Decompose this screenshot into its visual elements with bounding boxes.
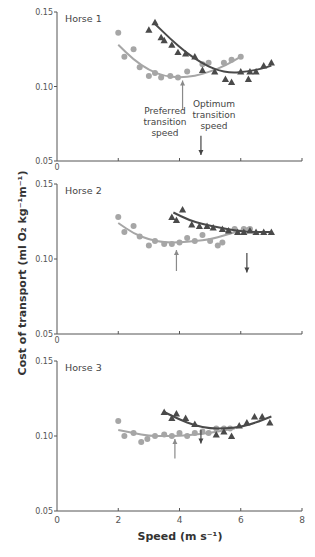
x-tick-label: 0 xyxy=(54,515,60,525)
trot-data-point xyxy=(177,240,183,246)
trot-data-point xyxy=(146,243,152,249)
trot-data-point xyxy=(206,430,212,436)
panel-horse-1: 0.050.100.150Horse 1 xyxy=(35,8,302,172)
panel-horse-2: 0.050.100.150Horse 2 xyxy=(35,180,302,345)
gallop-data-point xyxy=(173,410,180,416)
trot-data-point xyxy=(192,430,198,436)
trot-data-point xyxy=(121,433,127,439)
figure: 0.050.100.150Horse 10.050.100.150Horse 2… xyxy=(0,0,315,557)
y-tick-label: 0.15 xyxy=(35,8,53,17)
y-tick-label: 0.05 xyxy=(35,507,53,516)
trot-data-point xyxy=(121,54,127,60)
arrowhead-icon xyxy=(180,81,185,86)
y-tick-label: 0.05 xyxy=(35,157,53,166)
trot-data-point xyxy=(121,229,127,235)
annotation-preferred-line-3: speed xyxy=(151,128,178,138)
gallop-data-point xyxy=(228,432,235,438)
gallop-data-point xyxy=(174,49,181,55)
trot-data-point xyxy=(184,433,190,439)
trot-data-point xyxy=(219,240,225,246)
arrowhead-icon xyxy=(174,250,179,255)
trot-data-point xyxy=(131,430,137,436)
y-tick-label: 0.15 xyxy=(35,180,53,189)
chart-canvas: 0.050.100.150Horse 10.050.100.150Horse 2… xyxy=(0,0,315,557)
arrowhead-icon xyxy=(198,150,203,155)
arrowhead-icon xyxy=(244,268,249,273)
x-tick-label: 0 xyxy=(54,336,59,345)
x-tick-label: 6 xyxy=(238,515,244,525)
x-axis-label: Speed (m s⁻¹) xyxy=(138,530,223,543)
annotation-optimum-line-2: transition xyxy=(193,110,236,120)
trot-data-point xyxy=(115,30,121,36)
x-tick-label: 8 xyxy=(299,515,305,525)
panel-horse-3: 0.050.100.1502468Horse 3 xyxy=(35,357,305,525)
arrowhead-icon xyxy=(198,439,203,444)
annotation-preferred-line-2: transition xyxy=(144,117,187,127)
trot-data-point xyxy=(137,234,143,240)
y-tick-label: 0.10 xyxy=(35,432,53,441)
trot-data-point xyxy=(152,70,158,76)
y-axis-label: Cost of transport (ml O₂ kg⁻¹m⁻¹) xyxy=(16,171,29,376)
gallop-data-point xyxy=(222,75,229,81)
trot-data-point xyxy=(207,238,213,244)
gallop-data-point xyxy=(251,413,258,419)
trot-data-point xyxy=(158,75,164,81)
trot-data-point xyxy=(144,436,150,442)
panel-title: Horse 3 xyxy=(65,362,102,373)
trot-data-point xyxy=(137,64,143,70)
annotation-optimum: Optimum transition speed xyxy=(193,99,236,131)
trot-data-point xyxy=(115,214,121,220)
trot-data-point xyxy=(199,232,205,238)
annotation-optimum-line-1: Optimum xyxy=(193,99,235,109)
trot-data-point xyxy=(229,57,235,63)
trot-data-point xyxy=(161,241,167,247)
gallop-data-point xyxy=(179,206,186,212)
x-tick-label: 0 xyxy=(54,163,59,172)
x-tick-label: 4 xyxy=(177,515,183,525)
gallop-data-point xyxy=(182,414,189,420)
gallop-data-point xyxy=(151,19,158,25)
gallop-data-point xyxy=(245,75,252,81)
trot-data-point xyxy=(169,433,175,439)
trot-data-point xyxy=(167,73,173,79)
gallop-data-point xyxy=(243,419,250,425)
trot-data-point xyxy=(221,60,227,66)
trot-data-point xyxy=(184,235,190,241)
trot-data-point xyxy=(161,432,167,438)
gallop-data-point xyxy=(236,422,243,428)
gallop-data-point xyxy=(268,59,275,65)
gallop-data-point xyxy=(168,213,175,219)
gallop-fit-curve xyxy=(155,24,271,73)
gallop-data-point xyxy=(161,408,168,414)
gallop-data-point xyxy=(199,67,206,73)
panel-title: Horse 2 xyxy=(65,185,102,196)
y-tick-label: 0.10 xyxy=(35,255,53,264)
trot-data-point xyxy=(177,430,183,436)
trot-data-point xyxy=(192,238,198,244)
annotation-preferred-line-1: Preferred xyxy=(144,106,185,116)
y-tick-label: 0.10 xyxy=(35,83,53,92)
y-tick-label: 0.05 xyxy=(35,330,53,339)
trot-data-point xyxy=(131,46,137,52)
gallop-data-point xyxy=(266,419,273,425)
gallop-data-point xyxy=(228,78,235,84)
y-tick-label: 0.15 xyxy=(35,357,53,366)
gallop-data-point xyxy=(260,62,267,68)
gallop-data-point xyxy=(145,26,152,32)
x-tick-label: 2 xyxy=(115,515,121,525)
annotation-optimum-line-3: speed xyxy=(200,121,227,131)
trot-data-point xyxy=(146,73,152,79)
arrowhead-icon xyxy=(172,439,177,444)
trot-data-point xyxy=(138,439,144,445)
annotation-preferred: Preferred transition speed xyxy=(144,106,187,138)
trot-data-point xyxy=(175,75,181,81)
trot-data-point xyxy=(169,241,175,247)
trot-data-point xyxy=(152,238,158,244)
trot-data-point xyxy=(184,69,190,75)
trot-data-point xyxy=(131,223,137,229)
trot-data-point xyxy=(115,418,121,424)
trot-data-point xyxy=(152,433,158,439)
gallop-data-point xyxy=(259,413,266,419)
trot-data-point xyxy=(238,54,244,60)
panel-title: Horse 1 xyxy=(65,13,102,24)
